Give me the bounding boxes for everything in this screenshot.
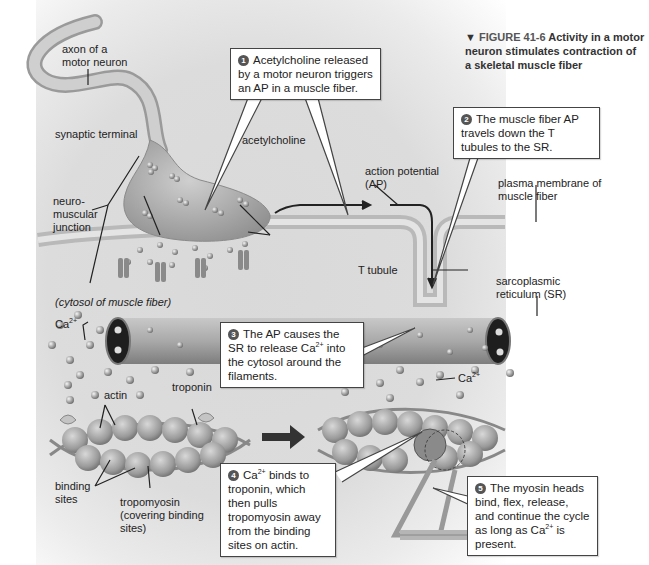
- synaptic-terminal: [124, 140, 270, 241]
- step-text: Ca: [243, 469, 258, 481]
- step-text-cont: binds to troponin, which then pulls trop…: [228, 469, 321, 551]
- figure-label: FIGURE 41-6: [479, 31, 546, 43]
- figure-caption: ▼ FIGURE 41-6 Activity in a motor neuron…: [465, 30, 645, 72]
- step-number-badge: 2: [461, 114, 472, 125]
- label-calcium-left: Ca2+: [55, 318, 77, 331]
- caption-marker: ▼: [465, 31, 476, 43]
- step-number-badge: 5: [475, 483, 486, 494]
- ca-charge: 2+: [316, 341, 324, 348]
- step-1-callout: 1Acetylcholine released by a motor neuro…: [230, 48, 381, 100]
- ca-charge: 2+: [69, 317, 77, 324]
- label-t-tubule: T tubule: [358, 264, 398, 277]
- label-binding-sites: binding sites: [55, 480, 100, 506]
- step-5-callout: 5The myosin heads bind, flex, release, a…: [467, 476, 598, 556]
- action-potential-arrow: [275, 201, 436, 287]
- label-action-potential: action potential (AP): [365, 165, 450, 191]
- label-actin: actin: [104, 389, 127, 402]
- step-4-callout: 4Ca2+ binds to troponin, which then pull…: [220, 463, 336, 557]
- thin-filament-active: [318, 409, 505, 473]
- label-acetylcholine: acetylcholine: [242, 134, 306, 147]
- step-number-badge: 4: [228, 470, 239, 481]
- step-number-badge: 1: [238, 55, 249, 66]
- label-tropomyosin: tropomyosin (covering binding sites): [120, 496, 210, 535]
- ca-symbol: Ca: [55, 318, 69, 330]
- ca-symbol: Ca: [458, 372, 472, 384]
- label-axon: axon of a motor neuron: [62, 43, 137, 69]
- acetylcholine-molecules: [125, 241, 248, 271]
- ca-charge: 2+: [258, 468, 266, 475]
- receptors: [118, 250, 249, 282]
- step-text: Acetylcholine released by a motor neuron…: [238, 54, 373, 94]
- transition-arrow: [262, 425, 305, 449]
- step-number-badge: 3: [228, 329, 239, 340]
- step-2-callout: 2The muscle fiber AP travels down the T …: [453, 107, 600, 159]
- step-text: The muscle fiber AP travels down the T t…: [461, 113, 579, 153]
- step-text: The myosin heads bind, flex, release, an…: [475, 482, 589, 536]
- label-calcium-right: Ca2+: [458, 372, 480, 385]
- label-cytosol: (cytosol of muscle fiber): [55, 296, 171, 309]
- plasma-membrane: [38, 222, 505, 300]
- step-3-callout: 3The AP causes the SR to release Ca2+ in…: [220, 322, 364, 388]
- label-troponin: troponin: [172, 381, 212, 394]
- ca-charge: 2+: [472, 371, 480, 378]
- label-sarcoplasmic-reticulum: sarcoplasmic reticulum (SR): [496, 275, 586, 301]
- label-plasma-membrane: plasma membrane of muscle fiber: [498, 177, 608, 203]
- label-synaptic-terminal: synaptic terminal: [55, 128, 138, 141]
- label-neuromuscular-junction: neuro-muscular junction: [53, 195, 108, 234]
